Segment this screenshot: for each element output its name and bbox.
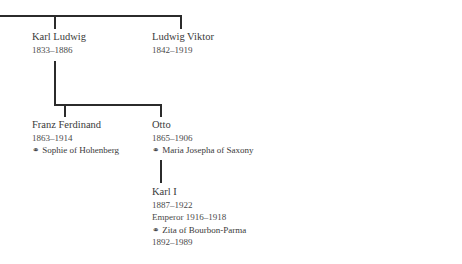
spouse-dates: 1892–1989 (152, 236, 246, 249)
person-dates: 1863–1914 (32, 132, 119, 145)
person-karl-ludwig: Karl Ludwig 1833–1886 (32, 31, 86, 56)
person-dates: 1833–1886 (32, 44, 86, 57)
person-name: Karl Ludwig (32, 31, 86, 44)
person-spouse: ⚭ Sophie of Hohenberg (32, 144, 119, 157)
connector-to-otto (160, 104, 162, 117)
person-karl-i: Karl I 1887–1922 Emperor 1916–1918 ⚭ Zit… (152, 186, 246, 249)
person-otto: Otto 1865–1906 ⚭ Maria Josepha of Saxony (152, 119, 253, 157)
person-spouse: ⚭ Zita of Bourbon-Parma (152, 224, 246, 237)
person-name: Ludwig Viktor (152, 31, 214, 44)
connector-to-karl-i (160, 160, 162, 183)
connector-to-ludwig-viktor (180, 15, 182, 29)
person-dates: 1865–1906 (152, 132, 253, 145)
person-name: Karl I (152, 186, 246, 199)
person-name: Franz Ferdinand (32, 119, 119, 132)
connector-top-bar (0, 15, 182, 17)
connector-to-franz-ferdinand (64, 104, 66, 117)
person-franz-ferdinand: Franz Ferdinand 1863–1914 ⚭ Sophie of Ho… (32, 119, 119, 157)
person-title: Emperor 1916–1918 (152, 211, 246, 224)
person-dates: 1887–1922 (152, 199, 246, 212)
connector-children-bar (54, 104, 162, 106)
person-dates: 1842–1919 (152, 44, 214, 57)
person-ludwig-viktor: Ludwig Viktor 1842–1919 (152, 31, 214, 56)
connector-from-karl-ludwig (54, 61, 56, 106)
person-spouse: ⚭ Maria Josepha of Saxony (152, 144, 253, 157)
connector-to-karl-ludwig (54, 15, 56, 29)
person-name: Otto (152, 119, 253, 132)
